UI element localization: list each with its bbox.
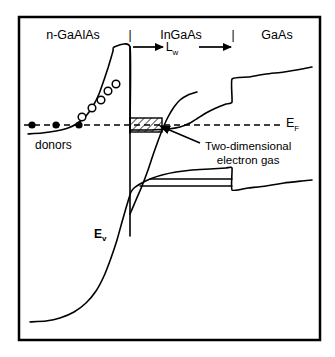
- donor-dot-1: [52, 121, 59, 128]
- electron-circle-4: [112, 80, 120, 88]
- donor-dot-0: [28, 121, 35, 128]
- valence-band-label: Ev: [94, 228, 106, 244]
- region-divider-right: |: [231, 29, 234, 42]
- fermi-level-label: EF: [286, 117, 299, 133]
- quantum-well-hatch: [130, 118, 162, 132]
- electron-circle-0: [78, 113, 86, 121]
- band-diagram-figure: n-GaAlAs InGaAs GaAs | | Lw EF Ev donors…: [0, 0, 335, 357]
- fermi-level-subscript: F: [294, 124, 299, 133]
- hatched-well-rect: [130, 118, 162, 132]
- region-divider-left: |: [128, 29, 131, 42]
- donor-dot-2: [75, 121, 82, 128]
- two-dimensional-electron-gas-label: Two-dimensional electron gas: [205, 140, 291, 167]
- well-width-label: Lw: [166, 41, 179, 57]
- 2deg-line-1: Two-dimensional: [205, 140, 291, 154]
- electron-circle-3: [104, 87, 112, 95]
- well-width-subscript: w: [173, 48, 179, 57]
- region-label-n-gaalas: n-GaAlAs: [46, 29, 100, 42]
- donors-label: donors: [35, 139, 72, 152]
- valence-band-subscript: v: [102, 234, 106, 243]
- electron-circle-2: [97, 96, 105, 104]
- electron-circle-1: [88, 104, 96, 112]
- region-label-gaas: GaAs: [261, 29, 292, 42]
- 2deg-line-2: electron gas: [205, 154, 291, 168]
